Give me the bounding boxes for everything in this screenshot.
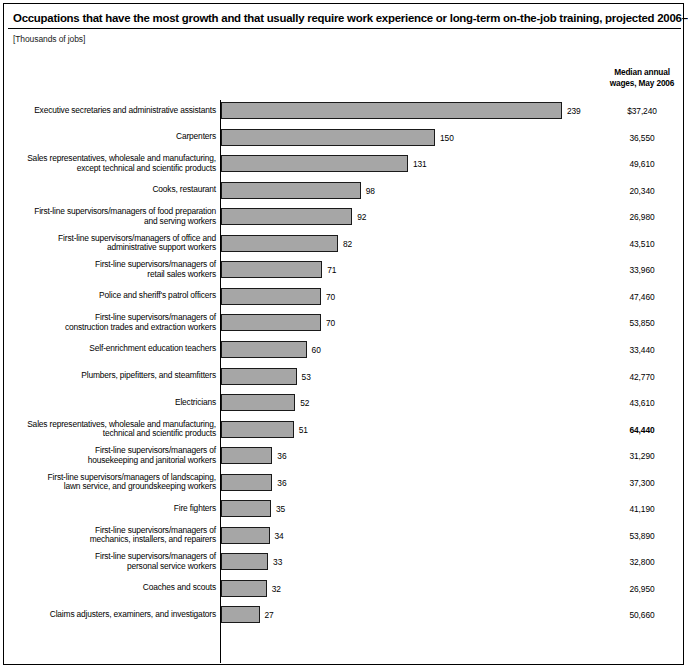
bar-value-label: 70 [326,292,335,302]
bar-chart-plot: Executive secretaries and administrative… [4,4,683,664]
bar-value-label: 239 [567,106,581,116]
occupation-label-line: Electricians [12,398,216,408]
occupation-label: First-line supervisors/managers ofperson… [12,552,216,571]
value-bar [221,129,435,146]
median-wage-value: 43,510 [596,239,688,249]
chart-row: Cooks, restaurant9820,340 [4,182,685,199]
chart-row: Executive secretaries and administrative… [4,102,685,119]
value-bar [221,421,294,438]
occupation-label-line: Fire fighters [12,504,216,514]
median-wage-value: 31,290 [596,451,688,461]
median-wage-value: 49,610 [596,159,688,169]
value-bar [221,527,270,544]
occupation-label-line: construction trades and extraction worke… [12,323,216,333]
occupation-label-line: Self-enrichment education teachers [12,344,216,354]
occupation-label-line: Executive secretaries and administrative… [12,106,216,116]
value-bar [221,474,272,491]
bar-value-label: 36 [277,451,286,461]
occupation-label: Fire fighters [12,504,216,514]
chart-row: First-line supervisors/managers ofmechan… [4,527,685,544]
occupation-label-line: administrative support workers [12,243,216,253]
chart-row: First-line supervisors/managers ofhousek… [4,447,685,464]
value-bar [221,447,272,464]
value-bar [221,208,352,225]
bar-value-label: 52 [300,398,309,408]
value-bar [221,235,338,252]
occupation-label: Sales representatives, wholesale and man… [12,420,216,439]
median-wage-value: 41,190 [596,504,688,514]
median-wage-value: 50,660 [596,610,688,620]
occupation-label: First-line supervisors/managers ofconstr… [12,313,216,332]
bar-value-label: 34 [275,531,284,541]
bar-value-label: 131 [413,159,427,169]
occupation-label-line: except technical and scientific products [12,164,216,174]
occupation-label: First-line supervisors/managers of food … [12,207,216,226]
median-wage-value: 33,960 [596,265,688,275]
median-wage-value: $37,240 [596,106,688,116]
bar-value-label: 92 [357,212,366,222]
chart-row: Fire fighters3541,190 [4,500,685,517]
median-wage-value: 47,460 [596,292,688,302]
chart-row: Claims adjusters, examiners, and investi… [4,606,685,623]
chart-row: First-line supervisors/managers of food … [4,208,685,225]
chart-row: First-line supervisors/managers of lands… [4,474,685,491]
chart-row: First-line supervisors/managers ofretail… [4,261,685,278]
bar-value-label: 53 [302,372,311,382]
chart-row: Self-enrichment education teachers6033,4… [4,341,685,358]
median-wage-value: 36,550 [596,133,688,143]
occupation-label-line: Claims adjusters, examiners, and investi… [12,610,216,620]
bar-value-label: 70 [326,318,335,328]
median-wage-value: 42,770 [596,372,688,382]
value-bar [221,368,297,385]
occupation-label-line: retail sales workers [12,270,216,280]
bar-value-label: 36 [277,478,286,488]
median-wage-value: 53,890 [596,531,688,541]
value-bar [221,341,307,358]
value-bar [221,314,321,331]
bar-value-label: 98 [366,186,375,196]
value-bar [221,553,268,570]
bar-value-label: 35 [276,504,285,514]
median-wage-value: 32,800 [596,557,688,567]
occupation-label: Self-enrichment education teachers [12,344,216,354]
value-bar [221,182,361,199]
occupation-label-line: mechanics, installers, and repairers [12,535,216,545]
value-bar [221,261,322,278]
median-wage-value: 43,610 [596,398,688,408]
value-bar [221,580,267,597]
occupation-label-line: Coaches and scouts [12,583,216,593]
occupation-label-line: Cooks, restaurant [12,185,216,195]
occupation-label: Coaches and scouts [12,583,216,593]
bar-value-label: 33 [273,557,282,567]
occupation-label-line: lawn service, and groundskeeping workers [12,482,216,492]
occupation-label: First-line supervisors/managers of offic… [12,234,216,253]
chart-frame: Occupations that have the most growth an… [3,3,684,665]
occupation-label-line: housekeeping and janitorial workers [12,456,216,466]
bar-value-label: 60 [312,345,321,355]
bar-value-label: 32 [272,584,281,594]
median-wage-value: 20,340 [596,186,688,196]
occupation-label: First-line supervisors/managers ofmechan… [12,526,216,545]
value-bar [221,394,295,411]
occupation-label: First-line supervisors/managers of lands… [12,473,216,492]
value-bar [221,102,562,119]
chart-row: First-line supervisors/managers of offic… [4,235,685,252]
value-bar [221,606,260,623]
occupation-label: Sales representatives, wholesale and man… [12,154,216,173]
bar-value-label: 27 [265,610,274,620]
median-wage-value: 37,300 [596,478,688,488]
median-wage-value: 26,980 [596,212,688,222]
median-wage-value: 53,850 [596,318,688,328]
value-bar [221,155,408,172]
bar-value-label: 82 [343,239,352,249]
occupation-label-line: Carpenters [12,132,216,142]
occupation-label: Electricians [12,398,216,408]
bar-value-label: 51 [299,425,308,435]
occupation-label-line: and serving workers [12,217,216,227]
occupation-label-line: technical and scientific products [12,429,216,439]
occupation-label-line: Plumbers, pipefitters, and steamfitters [12,371,216,381]
value-bar [221,500,271,517]
occupation-label: Plumbers, pipefitters, and steamfitters [12,371,216,381]
occupation-label-line: Police and sheriff's patrol officers [12,291,216,301]
occupation-label-line: personal service workers [12,562,216,572]
